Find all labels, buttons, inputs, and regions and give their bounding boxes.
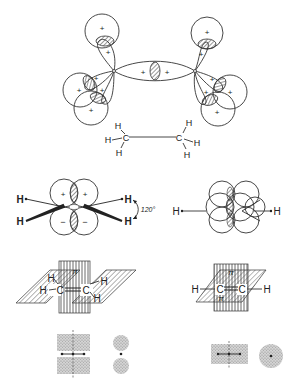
svg-text:+: + xyxy=(100,24,105,33)
atom-h: H xyxy=(194,138,201,148)
atom-h: H xyxy=(100,276,107,287)
atom-h: H xyxy=(191,284,198,295)
atom-h: H xyxy=(124,194,131,205)
atom-h: H xyxy=(115,121,122,131)
svg-text:+: + xyxy=(77,86,82,95)
atom-c: C xyxy=(176,133,183,143)
atom-c: C xyxy=(56,285,63,296)
orbital-sign-lower: − xyxy=(82,217,87,227)
svg-text:+: + xyxy=(100,86,105,95)
orbital-sign-lower: − xyxy=(60,217,65,227)
pi-label-bottom: π xyxy=(218,294,224,303)
atom-h: H xyxy=(172,206,179,217)
atom-h: H xyxy=(184,150,191,160)
orbital-sign-upper: + xyxy=(83,190,88,199)
svg-text:+: + xyxy=(165,68,170,77)
orbital-diagram: + + + + + + + + + + + + + + H H H xyxy=(0,0,294,385)
svg-text:+: + xyxy=(215,108,220,117)
acetylene-density-side-panel xyxy=(211,341,248,369)
svg-text:+: + xyxy=(94,74,99,83)
svg-text:+: + xyxy=(204,88,209,97)
acetylene-density-end-panel xyxy=(259,344,283,368)
atom-h: H xyxy=(124,216,131,227)
atom-c: C xyxy=(123,133,130,143)
atom-c: C xyxy=(238,284,245,295)
svg-text:+: + xyxy=(205,28,210,37)
ethylene-density-side-panel xyxy=(57,330,90,378)
atom-h: H xyxy=(47,273,54,284)
atom-h: H xyxy=(39,285,46,296)
svg-text:+: + xyxy=(199,50,204,59)
svg-text:+: + xyxy=(106,48,111,57)
bond-angle-label: 120° xyxy=(141,206,156,213)
ethylene-density-end-panel xyxy=(113,335,129,374)
svg-text:+: + xyxy=(141,68,146,77)
atom-h: H xyxy=(186,118,193,128)
atom-c: C xyxy=(216,284,223,295)
atom-h: H xyxy=(105,135,112,145)
svg-text:+: + xyxy=(210,75,215,84)
ethane-orbital-panel: + + + + + + + + + + + + + + xyxy=(63,14,247,149)
svg-text:+: + xyxy=(89,106,94,115)
atom-h: H xyxy=(93,293,100,304)
pi-label: π xyxy=(72,267,78,276)
pi-label-top: π xyxy=(228,268,234,277)
atom-h: H xyxy=(16,216,23,227)
atom-h: H xyxy=(273,206,280,217)
atom-h: H xyxy=(16,194,23,205)
ethylene-p-orbital-end-panel xyxy=(181,181,272,233)
atom-h: H xyxy=(263,284,270,295)
atom-h: H xyxy=(116,148,123,158)
orbital-sign-upper: + xyxy=(61,190,66,199)
atom-c: C xyxy=(82,285,89,296)
svg-text:+: + xyxy=(228,88,233,97)
